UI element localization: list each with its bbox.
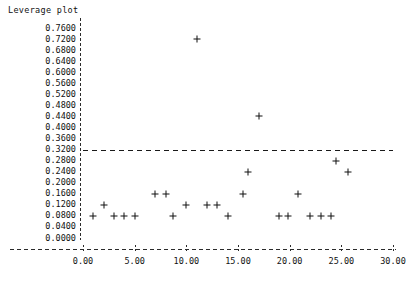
y-axis-line (80, 18, 81, 240)
data-point (90, 212, 97, 219)
data-point (224, 212, 231, 219)
data-point (183, 201, 190, 208)
data-point (344, 168, 351, 175)
data-point (284, 212, 291, 219)
y-axis-tick-labels: 0.76000.72000.68000.64000.60000.56000.52… (0, 0, 76, 283)
data-point (333, 157, 340, 164)
x-tick-label: 25.00 (329, 256, 355, 266)
data-point (121, 212, 128, 219)
data-point (317, 212, 324, 219)
data-point (169, 212, 176, 219)
x-tick-mark (238, 245, 239, 253)
y-tick-label: 0.7200 (45, 35, 76, 44)
y-tick-label: 0.4800 (45, 101, 76, 110)
data-point (214, 201, 221, 208)
data-point (152, 190, 159, 197)
data-point (193, 36, 200, 43)
x-tick-label: 30.00 (380, 256, 406, 266)
x-tick-mark (135, 245, 136, 253)
data-point (294, 190, 301, 197)
y-tick-label: 0.4400 (45, 112, 76, 121)
data-point (307, 212, 314, 219)
data-point (328, 212, 335, 219)
y-tick-label: 0.5600 (45, 79, 76, 88)
y-tick-label: 0.1200 (45, 200, 76, 209)
y-tick-label: 0.3200 (45, 145, 76, 154)
x-tick-label: 15.00 (225, 256, 251, 266)
data-point (111, 212, 118, 219)
y-tick-label: 0.3600 (45, 134, 76, 143)
data-point (162, 190, 169, 197)
x-tick-label: 0.00 (73, 256, 93, 266)
y-tick-label: 0.5200 (45, 90, 76, 99)
y-tick-label: 0.7600 (45, 24, 76, 33)
x-tick-mark (393, 245, 394, 253)
x-tick-mark (290, 245, 291, 253)
x-tick-label: 20.00 (277, 256, 303, 266)
plot-area (83, 18, 393, 238)
leverage-plot-figure: Leverage plot 0.76000.72000.68000.64000.… (0, 0, 416, 283)
y-tick-label: 0.0000 (45, 234, 76, 243)
x-tick-mark (186, 245, 187, 253)
data-point (276, 212, 283, 219)
y-tick-label: 0.2000 (45, 178, 76, 187)
data-point (204, 201, 211, 208)
y-tick-label: 0.1600 (45, 189, 76, 198)
y-tick-label: 0.0800 (45, 211, 76, 220)
data-point (240, 190, 247, 197)
x-tick-mark (341, 245, 342, 253)
x-tick-label: 10.00 (174, 256, 200, 266)
x-tick-label: 5.00 (124, 256, 144, 266)
y-tick-label: 0.2400 (45, 167, 76, 176)
y-tick-label: 0.6800 (45, 46, 76, 55)
data-point (255, 113, 262, 120)
threshold-line (83, 150, 393, 151)
y-tick-label: 0.0400 (45, 222, 76, 231)
data-point (131, 212, 138, 219)
x-axis-line (10, 249, 396, 250)
y-tick-label: 0.6400 (45, 57, 76, 66)
x-tick-mark (83, 245, 84, 253)
data-point (245, 168, 252, 175)
y-tick-label: 0.2800 (45, 156, 76, 165)
data-point (100, 201, 107, 208)
y-tick-label: 0.6000 (45, 68, 76, 77)
y-tick-label: 0.4000 (45, 123, 76, 132)
